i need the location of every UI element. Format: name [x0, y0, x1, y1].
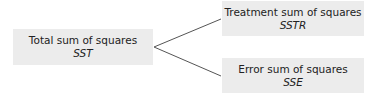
error-sum-of-squares-node: Error sum of squares SSE	[222, 58, 364, 93]
node-title: Total sum of squares	[29, 34, 137, 47]
connector-to-error	[154, 47, 221, 76]
total-sum-of-squares-node: Total sum of squares SST	[13, 29, 153, 65]
node-title: Error sum of squares	[238, 63, 347, 76]
node-abbreviation: SSTR	[280, 19, 307, 32]
node-abbreviation: SST	[73, 47, 92, 60]
node-title: Treatment sum of squares	[224, 6, 361, 19]
treatment-sum-of-squares-node: Treatment sum of squares SSTR	[222, 1, 364, 36]
connector-to-treatment	[154, 19, 221, 47]
node-abbreviation: SSE	[283, 76, 303, 89]
